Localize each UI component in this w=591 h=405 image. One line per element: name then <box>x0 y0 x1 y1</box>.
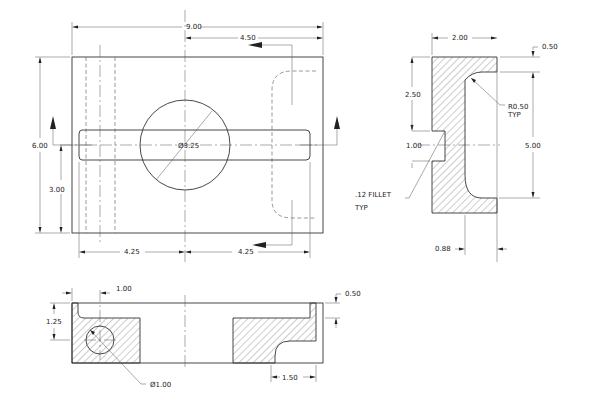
dim-half-width: 4.50 <box>240 34 256 42</box>
section-arrow-left <box>50 116 56 129</box>
dim-side-wall-offset: 0.88 <box>435 245 451 253</box>
section-arrow-right <box>334 116 340 129</box>
dim-side-top-thickness: 0.50 <box>542 43 558 51</box>
side-section-profile <box>432 57 497 213</box>
radius-note-typ: TYP <box>507 111 521 119</box>
section-arrow-bottom <box>252 242 266 248</box>
dim-overall-width: 9.00 <box>186 23 202 31</box>
fillet-note: .12 FILLET <box>355 191 392 199</box>
hidden-pocket <box>272 71 316 218</box>
dim-side-slot-height: 1.00 <box>406 142 422 150</box>
dim-side-width: 2.00 <box>452 34 468 42</box>
dim-bottom-top-thickness: 0.50 <box>345 290 361 298</box>
section-line-top <box>260 45 292 105</box>
dim-side-upper-height: 2.50 <box>405 91 421 99</box>
radius-note: R0.50 <box>508 103 528 111</box>
dim-flange-height: 1.25 <box>46 318 62 326</box>
side-view: 2.00 0.50 5.00 2.50 1.00 0.88 <box>354 33 558 262</box>
section-line-left <box>53 125 95 145</box>
section-arrow-top <box>248 42 262 48</box>
dim-right-half: 4.25 <box>238 248 254 256</box>
bore-diameter-label: Ø3.25 <box>178 142 199 150</box>
dim-height: 6.00 <box>32 142 48 150</box>
dim-hole-diameter: Ø1.00 <box>150 381 171 389</box>
section-line-bottom <box>266 200 292 245</box>
bottom-right-section <box>233 303 316 363</box>
dim-slot-center-height: 3.00 <box>49 186 65 194</box>
technical-drawing: Ø3.25 9.00 4.50 6.00 <box>0 0 591 405</box>
bottom-view: 1.00 1.25 0.50 1.50 Ø1.00 <box>46 285 361 389</box>
dim-side-inner-height: 5.00 <box>525 142 541 150</box>
dim-hole-offset: 1.00 <box>116 285 132 293</box>
front-view: Ø3.25 9.00 4.50 6.00 <box>32 10 340 262</box>
fillet-note-typ: TYP <box>354 204 368 212</box>
dim-step-width: 1.50 <box>282 374 298 382</box>
section-line-right <box>297 125 337 145</box>
bottom-left-section <box>72 303 140 363</box>
dim-left-half: 4.25 <box>124 248 140 256</box>
